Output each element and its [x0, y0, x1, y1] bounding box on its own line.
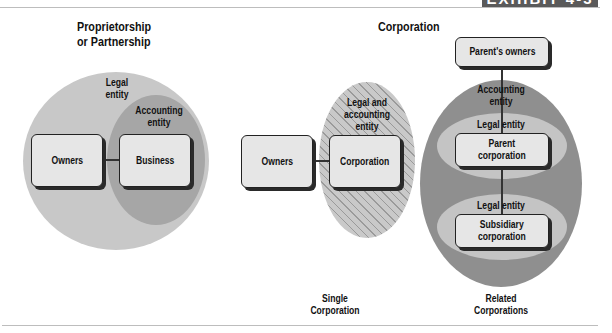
business-box-label: Business — [136, 155, 174, 167]
parent-corporation-line1: Parent — [478, 138, 526, 150]
proprietorship-title-line2: or Partnership — [77, 35, 151, 50]
subsidiary-corporation-line2: corporation — [478, 231, 526, 243]
subsidiary-corporation-box-label: Subsidiary corporation — [478, 219, 526, 243]
legal-accounting-entity-label: Legal and accounting entity — [341, 97, 393, 133]
owners-box: Owners — [31, 134, 103, 187]
corporation-title: Corporation — [378, 20, 440, 35]
subsidiary-legal-entity-label: Legal entity — [467, 200, 536, 212]
business-box: Business — [119, 134, 191, 187]
accounting-entity-label: Accounting entity — [129, 105, 189, 129]
connector-owners-corporation — [312, 160, 330, 162]
related-accounting-label-line2: entity — [471, 96, 531, 108]
top-rule — [0, 7, 600, 8]
accounting-entity-label-line1: Accounting — [129, 105, 189, 117]
exhibit-badge: EXHIBIT 4-3 — [482, 0, 598, 7]
related-accounting-label-line1: Accounting — [471, 84, 531, 96]
proprietorship-title-line1: Proprietorship — [77, 20, 151, 35]
parents-owners-box: Parent's owners — [455, 37, 549, 67]
legal-accounting-label-line3: entity — [341, 121, 393, 133]
related-caption-line2: Corporations — [462, 305, 539, 317]
single-caption-line1: Single — [301, 293, 370, 305]
legal-entity-label-line1: Legal — [96, 77, 139, 89]
corporation-box: Corporation — [329, 135, 401, 188]
related-caption-line1: Related — [462, 293, 539, 305]
legal-entity-label-line2: entity — [96, 89, 139, 101]
connector-owners-business — [102, 159, 120, 161]
owners-box-label: Owners — [51, 155, 83, 167]
parent-corporation-box: Parent corporation — [455, 133, 549, 167]
parents-owners-box-label: Parent's owners — [469, 46, 535, 58]
accounting-entity-label-line2: entity — [129, 117, 189, 129]
single-owners-box-label: Owners — [261, 156, 293, 168]
legal-entity-label: Legal entity — [96, 77, 139, 101]
subsidiary-corporation-line1: Subsidiary — [478, 219, 526, 231]
parent-legal-entity-label: Legal entity — [467, 119, 536, 131]
related-accounting-entity-label: Accounting entity — [471, 84, 531, 108]
single-corporation-caption: Single Corporation — [301, 293, 370, 317]
proprietorship-title: Proprietorship or Partnership — [77, 20, 151, 50]
legal-accounting-label-line1: Legal and — [341, 97, 393, 109]
parent-corporation-line2: corporation — [478, 150, 526, 162]
corporation-box-label: Corporation — [340, 156, 389, 168]
single-owners-box: Owners — [241, 135, 313, 188]
parent-corporation-box-label: Parent corporation — [478, 138, 526, 162]
bottom-rule — [2, 325, 598, 326]
related-corporations-caption: Related Corporations — [462, 293, 539, 317]
legal-accounting-label-line2: accounting — [341, 109, 393, 121]
subsidiary-corporation-box: Subsidiary corporation — [455, 214, 549, 248]
single-caption-line2: Corporation — [301, 305, 370, 317]
